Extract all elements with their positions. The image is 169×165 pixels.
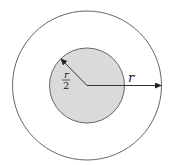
concentric-circles-diagram: r r 2 [0,0,169,165]
inner-radius-label-denominator: 2 [63,80,69,91]
outer-radius-label: r [128,70,135,85]
